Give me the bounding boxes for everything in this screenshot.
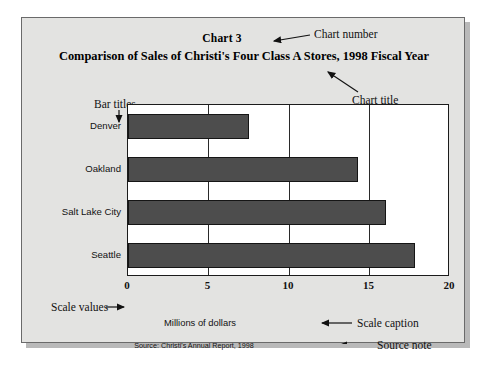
plot-area	[127, 104, 449, 276]
bar-denver	[128, 114, 249, 139]
chart-number-text: Chart 3	[202, 32, 241, 44]
figure-card: Chart 3 Comparison of Sales of Christi's…	[21, 17, 465, 343]
chart-number: Chart 3	[22, 32, 466, 44]
xtick-2: 10	[283, 279, 294, 291]
bar-row-0	[128, 114, 448, 139]
bar-label-1: Oakland	[21, 163, 121, 174]
annotation-chart-number: Chart number	[314, 28, 378, 40]
figure-page: Chart 3 Comparison of Sales of Christi's…	[0, 0, 484, 370]
bar-label-0: Denver	[21, 120, 121, 131]
bar-salt-lake-city	[128, 200, 386, 225]
page-title: Comparison of Sales of Christi's Four Cl…	[22, 49, 466, 64]
bar-label-3: Seattle	[21, 249, 121, 260]
xtick-3: 15	[363, 279, 374, 291]
bar-row-3	[128, 243, 448, 268]
bar-seattle	[128, 243, 415, 268]
bar-oakland	[128, 157, 358, 182]
bar-row-1	[128, 157, 448, 182]
arrow-chart-title	[328, 72, 358, 92]
source-note: Source: Christi's Annual Report, 1998	[22, 341, 466, 350]
annotation-scale-values: Scale values	[51, 301, 108, 313]
category-labels: Denver Oakland Salt Lake City Seattle	[22, 104, 121, 276]
xtick-1: 5	[205, 279, 211, 291]
xtick-4: 20	[444, 279, 455, 291]
source-note-text: Source: Christi's Annual Report, 1998	[134, 341, 254, 350]
axis-caption-text: Millions of dollars	[164, 317, 236, 328]
axis-caption: Millions of dollars	[22, 317, 466, 328]
bar-label-2: Salt Lake City	[21, 206, 121, 217]
bar-row-2	[128, 200, 448, 225]
xtick-0: 0	[124, 279, 130, 291]
